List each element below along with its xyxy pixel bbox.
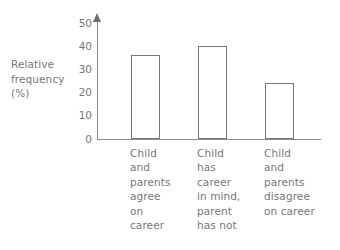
category-label-2-line-4: in mind, bbox=[197, 189, 241, 203]
y-axis-tick-20: 20 bbox=[56, 87, 92, 98]
category-label-3-line-2: and bbox=[264, 160, 315, 174]
x-axis-line bbox=[97, 139, 321, 140]
category-label-2-line-3: career bbox=[197, 175, 241, 189]
category-label-1-line-5: on bbox=[130, 204, 171, 218]
category-label-1: Childandparentsagreeoncareer bbox=[130, 146, 171, 232]
y-axis-arrow-icon bbox=[93, 13, 101, 22]
category-label-1-line-4: agree bbox=[130, 189, 171, 203]
bar-chart: Relative frequency (%) 01020304050 Child… bbox=[0, 0, 340, 250]
category-label-1-line-2: and bbox=[130, 160, 171, 174]
category-label-1-line-1: Child bbox=[130, 146, 171, 160]
category-label-2-line-5: parent bbox=[197, 204, 241, 218]
y-axis-tick-40: 40 bbox=[56, 41, 92, 52]
y-axis-tick-50: 50 bbox=[56, 18, 92, 29]
y-axis-tick-30: 30 bbox=[56, 64, 92, 75]
category-label-2-line-1: Child bbox=[197, 146, 241, 160]
category-label-3-line-4: disagree bbox=[264, 189, 315, 203]
bar-1 bbox=[131, 55, 160, 139]
y-axis-tick-0: 0 bbox=[56, 134, 92, 145]
category-label-3-line-1: Child bbox=[264, 146, 315, 160]
y-axis-tick-labels: 01020304050 bbox=[56, 0, 92, 250]
category-label-3-line-5: on career bbox=[264, 204, 315, 218]
category-label-1-line-6: career bbox=[130, 218, 171, 232]
bar-3 bbox=[265, 83, 294, 139]
plot-area: 01020304050 Childandparentsagreeoncareer… bbox=[0, 0, 340, 250]
category-label-2-line-2: has bbox=[197, 160, 241, 174]
y-axis-tick-10: 10 bbox=[56, 110, 92, 121]
bar-2 bbox=[198, 46, 227, 139]
y-axis-line bbox=[97, 20, 98, 139]
category-label-2-line-6: has not bbox=[197, 218, 241, 232]
category-label-3: Childandparentsdisagreeon career bbox=[264, 146, 315, 218]
category-label-2: Childhascareerin mind,parenthas not bbox=[197, 146, 241, 232]
category-label-3-line-3: parents bbox=[264, 175, 315, 189]
category-label-1-line-3: parents bbox=[130, 175, 171, 189]
